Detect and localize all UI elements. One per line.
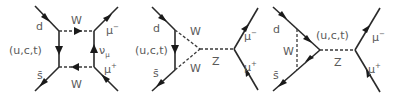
w-bottom-label: W bbox=[190, 62, 201, 75]
nu-label: νμ bbox=[99, 44, 110, 59]
d-label: d bbox=[36, 20, 43, 33]
w-top-label: W bbox=[190, 25, 201, 38]
w-bottom-label: W bbox=[71, 78, 82, 91]
z-label: Z bbox=[212, 55, 220, 68]
mu-minus-label: μ− bbox=[106, 23, 119, 37]
sbar-label: s̄ bbox=[273, 69, 279, 82]
mu-plus-label: μ+ bbox=[368, 62, 381, 76]
w-top-label: W bbox=[71, 14, 82, 27]
z-penguin-quark-loop-diagram: d W (u,c,t) s̄ Z μ− μ+ bbox=[273, 7, 385, 92]
arrow-icon bbox=[71, 63, 79, 71]
d-label: d bbox=[273, 23, 280, 36]
d-label: d bbox=[153, 22, 160, 35]
feynman-diagrams-figure: d (u,c,t) s̄ W W νμ μ− μ+ d (u,c,t) s̄ W… bbox=[0, 0, 401, 97]
mu-minus-label: μ− bbox=[244, 29, 257, 43]
arrow-icon bbox=[171, 45, 179, 54]
z-penguin-w-loop-diagram: d (u,c,t) s̄ W W Z μ− μ+ bbox=[135, 7, 258, 91]
box-diagram: d (u,c,t) s̄ W W νμ μ− μ+ bbox=[9, 6, 119, 91]
mu-minus-label: μ− bbox=[372, 30, 385, 44]
quarks-label: (u,c,t) bbox=[135, 44, 168, 57]
sbar-label: s̄ bbox=[37, 69, 43, 82]
arrow-icon bbox=[74, 27, 82, 35]
quarks-label: (u,c,t) bbox=[316, 29, 349, 42]
z-label: Z bbox=[334, 56, 342, 69]
mu-plus-label: μ+ bbox=[244, 60, 257, 74]
mu-plus-label: μ+ bbox=[104, 62, 117, 76]
quarks-label: (u,c,t) bbox=[9, 44, 42, 57]
sbar-label: s̄ bbox=[153, 67, 159, 80]
arrow-icon bbox=[55, 46, 63, 55]
arrow-icon bbox=[362, 25, 370, 33]
w-label: W bbox=[283, 45, 294, 58]
arrow-icon bbox=[90, 44, 98, 53]
